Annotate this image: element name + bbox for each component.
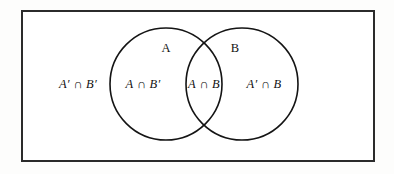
region-label-b-only: A′ ∩ B — [246, 78, 281, 91]
set-label-b: B — [231, 42, 239, 55]
region-label-intersection: A ∩ B — [188, 78, 220, 91]
region-label-a-only: A ∩ B′ — [126, 78, 161, 91]
venn-diagram-figure: A B A′ ∩ B′ A ∩ B′ A ∩ B A′ ∩ B — [0, 0, 394, 174]
set-label-a: A — [161, 42, 170, 55]
region-label-outside: A′ ∩ B′ — [59, 78, 97, 91]
